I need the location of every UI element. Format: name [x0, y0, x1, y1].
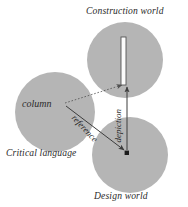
label-column-term: column: [22, 99, 51, 109]
label-construction-world: Construction world: [86, 6, 164, 16]
edge-label-depiction: depiction: [114, 109, 123, 143]
column-pillar-icon: [121, 37, 126, 85]
label-critical-language: Critical language: [6, 148, 77, 158]
label-design-world: Design world: [94, 191, 148, 201]
circle-design-world: [92, 117, 168, 193]
point-marker-icon: [125, 151, 129, 155]
diagram-canvas: Construction world Design world Critical…: [0, 0, 188, 207]
circle-critical-language: [15, 72, 95, 152]
